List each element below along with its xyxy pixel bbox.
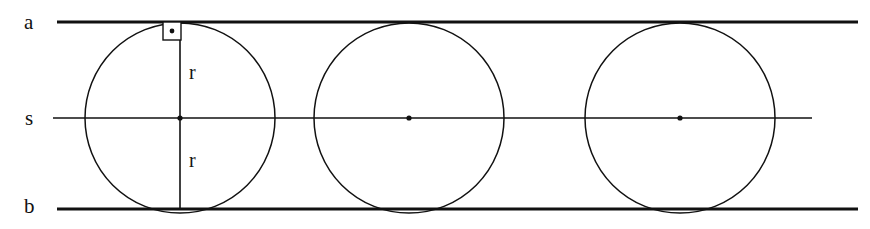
label-radius-upper: r bbox=[189, 62, 196, 82]
label-radius-lower: r bbox=[189, 150, 196, 170]
label-line-b: b bbox=[24, 196, 35, 217]
label-line-s: s bbox=[25, 108, 33, 129]
center-dot-circle-2 bbox=[406, 115, 411, 120]
center-dot-circle-3 bbox=[677, 115, 682, 120]
center-dot-circle-1 bbox=[177, 115, 182, 120]
geometry-figure: a s b r r bbox=[0, 0, 870, 229]
figure-canvas bbox=[0, 0, 870, 229]
right-angle-dot-icon bbox=[170, 29, 175, 34]
label-line-a: a bbox=[24, 12, 33, 33]
